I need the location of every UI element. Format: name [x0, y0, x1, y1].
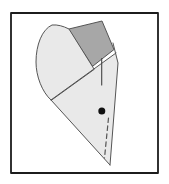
origami-diagram-page: [0, 0, 169, 184]
eye-dot: [98, 108, 105, 115]
origami-step-figure: [0, 0, 169, 184]
